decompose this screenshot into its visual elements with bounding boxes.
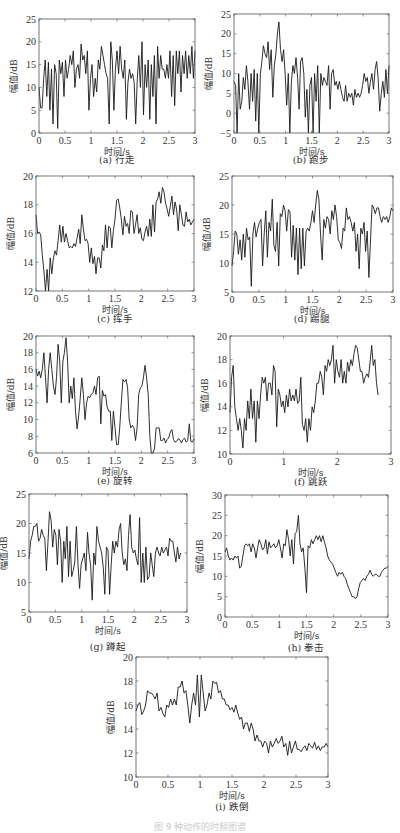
y-tick-label: 16	[123, 700, 133, 711]
data-series-line	[136, 675, 328, 755]
y-axis-title: 幅值/dB	[105, 700, 116, 734]
x-tick-label: 3	[326, 779, 331, 790]
y-tick-label: 20	[123, 652, 133, 663]
subplot-caption-h: (h) 拳击	[288, 640, 325, 654]
subplot-caption-c: (c) 挥手	[97, 311, 133, 325]
subplot-caption-f: (f) 跳跃	[294, 474, 328, 488]
y-tick-label: 12	[123, 748, 133, 759]
x-tick-label: 2.5	[290, 779, 303, 790]
y-tick-label: 10	[123, 772, 133, 783]
subplot-caption-d: (d) 踢腿	[294, 311, 331, 325]
figure-caption: 图 9 种动作的时频图谱	[154, 820, 246, 833]
subplot-caption-a: (a) 行走	[99, 152, 135, 166]
x-tick-label: 1.5	[226, 779, 239, 790]
subplot-caption-e: (e) 旋转	[97, 473, 133, 487]
x-tick-label: 1	[198, 779, 203, 790]
y-tick-label: 18	[123, 676, 133, 687]
subplot-caption-g: (g) 蹲起	[90, 639, 127, 653]
subplot-caption-b: (b) 跑步	[293, 152, 330, 166]
subplot-caption-i: (i) 跌倒	[215, 799, 248, 813]
x-tick-label: 0.5	[162, 779, 175, 790]
y-tick-label: 14	[123, 724, 133, 735]
x-tick-label: 2	[262, 779, 267, 790]
x-tick-label: 0	[134, 779, 139, 790]
